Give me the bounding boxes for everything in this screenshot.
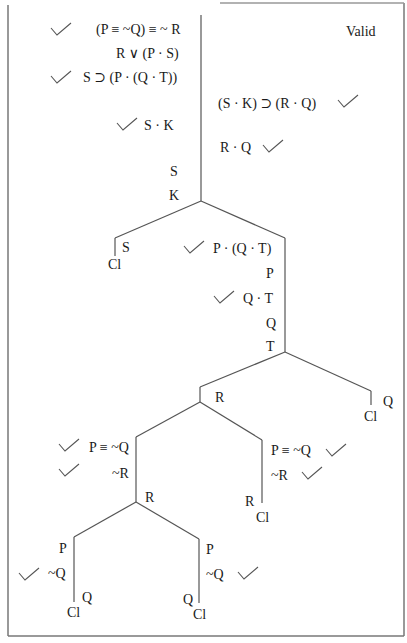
closed-marker: Cl xyxy=(364,409,377,425)
trunk-s: S xyxy=(170,164,178,180)
branch1-left-s: S xyxy=(122,240,130,256)
check-icon xyxy=(237,566,259,580)
verdict-label: Valid xyxy=(346,24,376,40)
check-icon xyxy=(337,94,359,108)
branch4-left-q: Q xyxy=(82,590,92,606)
branch3-left-nr: ~R xyxy=(112,466,129,482)
branch1-q: Q xyxy=(266,316,276,332)
check-icon xyxy=(262,139,284,153)
branch1-p: P xyxy=(266,266,274,282)
branch3-right-p-equiv-nq: P ≡ ~Q xyxy=(271,443,311,459)
branch3-right-nr: ~R xyxy=(271,468,288,484)
closed-marker: Cl xyxy=(193,607,206,623)
premise-1: (P ≡ ~Q) ≡ ~ R xyxy=(96,22,180,38)
branch4-right-q: Q xyxy=(183,592,193,608)
branch1-t: T xyxy=(266,339,275,355)
closed-marker: Cl xyxy=(67,605,80,621)
branch4-left-p: P xyxy=(59,541,67,557)
check-icon xyxy=(58,463,80,477)
check-icon xyxy=(301,466,323,480)
branch3-left-p-equiv-nq: P ≡ ~Q xyxy=(89,440,129,456)
check-icon xyxy=(50,22,72,36)
branch1-p-dot-qt: P · (Q · T) xyxy=(213,241,271,257)
check-icon xyxy=(58,438,80,452)
check-icon xyxy=(213,290,235,304)
branch2-right-q: Q xyxy=(383,394,393,410)
check-icon xyxy=(183,240,205,254)
check-icon xyxy=(50,70,72,84)
branch1-q-dot-t: Q · T xyxy=(243,291,273,307)
premise-2: R ∨ (P · S) xyxy=(116,46,179,62)
check-icon xyxy=(325,443,347,457)
trunk-r-dot-q: R · Q xyxy=(220,140,251,156)
branch3-right-r: R xyxy=(245,494,254,510)
branch4-right-p: P xyxy=(206,542,214,558)
branch4-left-nq: ~Q xyxy=(48,566,66,582)
truth-tree-diagram: Valid (P ≡ ~Q) ≡ ~ R R ∨ (P · S) S ⊃ (P … xyxy=(0,0,407,643)
branch4-right-nq: ~Q xyxy=(206,567,224,583)
trunk-s-dot-k: S · K xyxy=(144,118,174,134)
negated-conclusion: (S · K) ⊃ (R · Q) xyxy=(218,96,316,112)
check-icon xyxy=(18,567,40,581)
branch2-left-r: R xyxy=(215,390,224,406)
closed-marker: Cl xyxy=(108,257,121,273)
trunk-k: K xyxy=(169,188,179,204)
branch3-left-r: R xyxy=(145,490,154,506)
closed-marker: Cl xyxy=(256,510,269,526)
premise-3: S ⊃ (P · (Q · T)) xyxy=(83,70,177,86)
check-icon xyxy=(116,117,138,131)
